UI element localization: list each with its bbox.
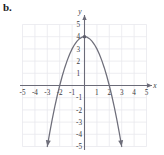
graph-svg: x y -5 -4 -3 -2 -1 1 2 3 4 5 5 4 3 2 1 -… [0,0,164,155]
y-tick-label: -1 [76,94,82,102]
y-tick-label: 2 [76,58,80,66]
x-tick-label: 1 [95,89,99,97]
left-arm-arrow-icon [46,140,51,147]
x-axis-arrow-icon [147,83,152,87]
y-axis-label: y [77,7,82,16]
x-tick-label: 5 [145,89,149,97]
x-axis-label: x [152,81,157,90]
x-tick-label: -3 [44,89,50,97]
parabola-figure: b. [0,0,164,155]
y-axis-arrow-icon [82,15,86,20]
y-tick-label: -2 [76,107,82,115]
x-tick-label: 3 [120,89,124,97]
axes [20,15,152,150]
y-tick-label: 3 [76,46,80,54]
vertex-marker [83,35,87,39]
x-tick-label: -4 [32,89,38,97]
figure-label: b. [3,1,12,13]
y-tick-label: 1 [76,70,80,78]
y-tick-label: 5 [76,21,80,29]
x-tick-label: -1 [69,89,75,97]
y-tick-label: -5 [76,143,82,151]
y-tick-label: -4 [76,131,82,139]
x-tick-label: -5 [20,89,26,97]
x-tick-label: 4 [132,89,136,97]
y-tick-label: -3 [76,119,82,127]
right-arm-arrow-icon [118,140,123,147]
